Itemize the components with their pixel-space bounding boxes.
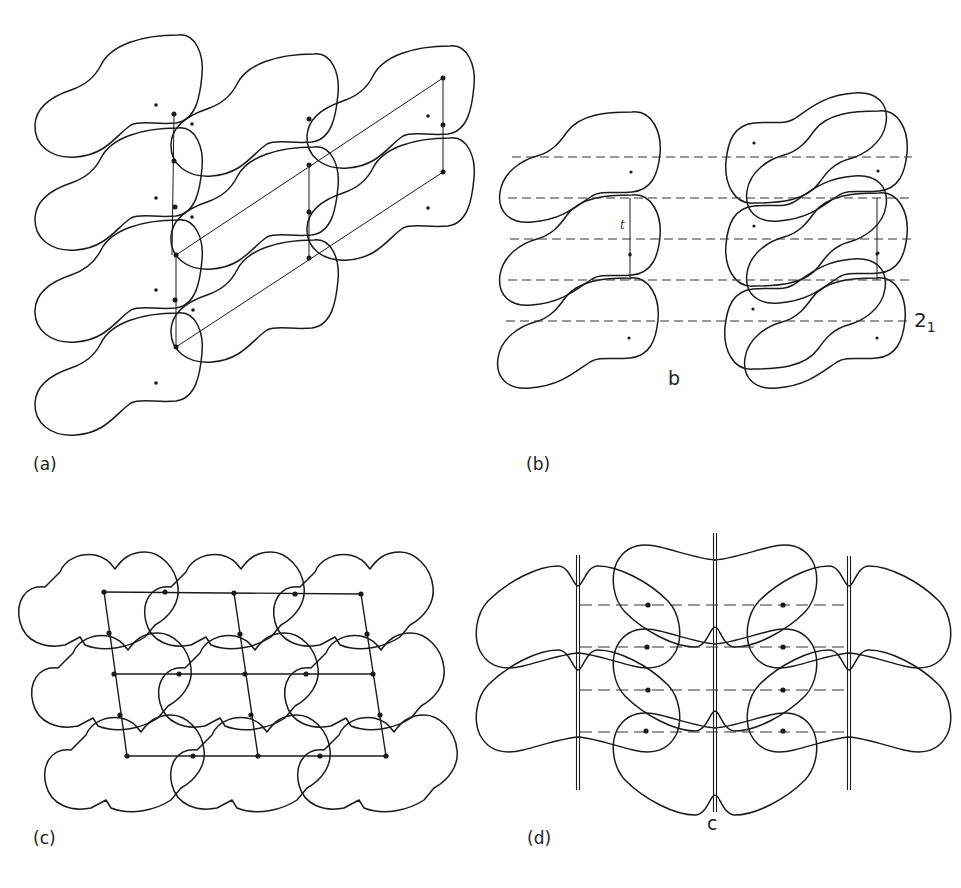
axis-label-c: c bbox=[707, 812, 717, 834]
molecule-column-right bbox=[747, 566, 950, 752]
screw-axis-order: 2 bbox=[914, 308, 927, 332]
molecule-column-left bbox=[476, 566, 679, 752]
panel-c-drawing bbox=[0, 480, 480, 888]
molecule-column-right bbox=[745, 111, 908, 388]
screw-axis-subscript: 1 bbox=[927, 319, 936, 335]
panel-d-drawing bbox=[480, 480, 961, 888]
contact-points bbox=[643, 602, 785, 733]
screw-axis-label: 21 bbox=[914, 308, 936, 335]
molecule-column-left bbox=[498, 112, 661, 388]
panel-label-b: (b) bbox=[526, 454, 550, 474]
panel-b: t 21 b (b) bbox=[0, 0, 961, 480]
cloud-molecules bbox=[19, 552, 458, 812]
molecule-column-middle bbox=[613, 545, 816, 815]
translation-label-t: t bbox=[620, 218, 625, 232]
molecule-middle-dots bbox=[751, 141, 755, 310]
panel-d: c (d) bbox=[480, 480, 961, 888]
panel-c: (c) bbox=[0, 480, 480, 888]
panel-label-c: (c) bbox=[33, 828, 56, 848]
panel-b-drawing bbox=[0, 0, 961, 480]
molecule-column-middle bbox=[725, 93, 887, 369]
panel-label-d: (d) bbox=[527, 828, 551, 848]
axis-label-b: b bbox=[668, 367, 680, 389]
